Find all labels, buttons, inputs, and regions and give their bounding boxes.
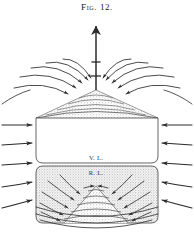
left-entry-arrows [2,125,32,208]
label-rl: R. L. [89,169,104,176]
upward-flux-arrow [91,26,101,90]
figure-container: Fig. 12. [0,0,194,236]
upper-convergence-fan [36,90,158,118]
right-entry-arrows [162,125,192,208]
label-vl: V. L. [89,154,103,161]
figure-illustration: V. L. R. L. [0,0,194,236]
